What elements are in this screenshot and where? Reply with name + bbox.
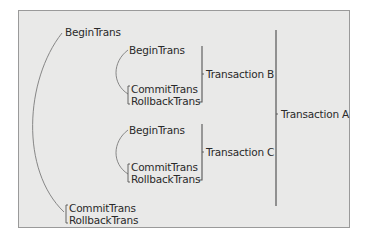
transaction-c-begin-trans-label: BeginTrans	[129, 124, 185, 136]
transaction-b-label: Transaction B	[206, 68, 274, 80]
transaction-b-commit-rollback-brace	[128, 86, 130, 104]
outer-rollback-trans-label: RollbackTrans	[69, 214, 138, 226]
transaction-c-label: Transaction C	[206, 146, 274, 158]
transaction-c-commit-rollback-brace	[128, 164, 130, 182]
transaction-c-bracket	[199, 124, 202, 180]
transaction-b-commit-trans-label: CommitTrans	[131, 83, 198, 95]
outer-commit-trans-label: CommitTrans	[69, 202, 136, 214]
transaction-b-arc	[116, 50, 128, 94]
diagram-canvas	[0, 0, 366, 243]
transaction-c-commit-trans-label: CommitTrans	[131, 161, 198, 173]
transaction-a-label: Transaction A	[281, 108, 349, 120]
transaction-b-begin-trans-label: BeginTrans	[129, 44, 185, 56]
outer-commit-rollback-brace	[66, 205, 68, 223]
transaction-c-arc	[116, 130, 128, 174]
transaction-b-rollback-trans-label: RollbackTrans	[131, 95, 200, 107]
transaction-b-bracket	[199, 46, 202, 102]
outer-transaction-arc	[33, 33, 64, 212]
transaction-c-rollback-trans-label: RollbackTrans	[131, 173, 200, 185]
outer-begin-trans-label: BeginTrans	[65, 26, 121, 38]
